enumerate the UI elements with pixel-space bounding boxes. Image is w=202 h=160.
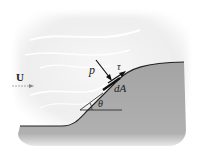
pressure-label: p — [89, 64, 95, 76]
area-element-label: dA — [114, 83, 126, 94]
velocity-label: U — [16, 72, 24, 83]
shear-stress-label: τ — [117, 62, 121, 72]
angle-label: θ — [98, 99, 103, 109]
flow-diagram-canvas — [0, 0, 202, 160]
